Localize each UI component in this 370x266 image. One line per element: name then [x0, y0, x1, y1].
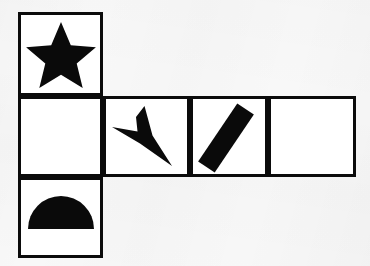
- shape-grid-figure: [0, 0, 370, 266]
- middle-row: [20, 98, 355, 176]
- cell-empty-right[interactable]: [270, 98, 355, 176]
- top-row: [20, 14, 102, 95]
- bottom-row: [20, 179, 102, 257]
- cell-empty-left[interactable]: [20, 98, 102, 176]
